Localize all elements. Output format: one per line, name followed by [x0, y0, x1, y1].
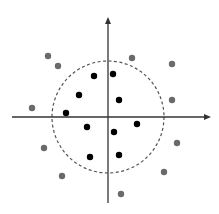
y-axis-arrow-icon: [105, 17, 111, 24]
outer-point: [45, 53, 51, 59]
outer-points: [29, 53, 180, 197]
outer-point: [41, 145, 47, 151]
inner-point: [116, 97, 122, 103]
inner-point: [134, 121, 140, 127]
outer-point: [169, 97, 175, 103]
inner-point: [111, 129, 117, 135]
outer-point: [29, 105, 35, 111]
inner-point: [116, 152, 122, 158]
inner-point: [76, 92, 82, 98]
x-axis-arrow-icon: [204, 114, 211, 120]
outer-point: [59, 173, 65, 179]
inner-point: [87, 154, 93, 160]
outer-point: [169, 61, 175, 67]
scatter-diagram: [0, 0, 219, 214]
outer-point: [174, 140, 180, 146]
outer-point: [161, 169, 167, 175]
inner-point: [63, 110, 69, 116]
outer-point: [129, 55, 135, 61]
outer-point: [55, 63, 61, 69]
inner-point: [91, 73, 97, 79]
inner-point: [84, 124, 90, 130]
outer-point: [118, 191, 124, 197]
inner-point: [110, 71, 116, 77]
inner-points: [63, 71, 140, 160]
